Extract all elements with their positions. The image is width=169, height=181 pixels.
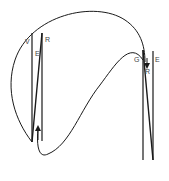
label-right-e: E	[155, 56, 160, 63]
outer-arc-curve	[11, 11, 145, 142]
label-right-g: G	[134, 56, 139, 63]
label-left-e: E	[35, 50, 40, 57]
right-zigzag	[143, 50, 153, 160]
s-curve	[37, 53, 143, 155]
label-left-r: R	[45, 36, 50, 43]
diagram-canvas: V E R G R E	[0, 0, 169, 181]
label-left-v: V	[25, 38, 30, 45]
label-right-r: R	[145, 68, 150, 75]
